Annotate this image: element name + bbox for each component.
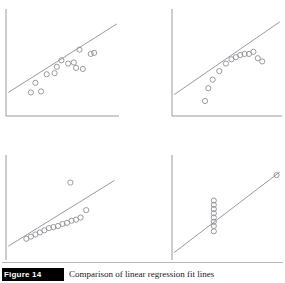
data-point-marker [33, 80, 38, 85]
data-point-marker [71, 60, 76, 65]
data-point-marker [52, 71, 57, 76]
figure-number-tag: Figure 14 [2, 268, 64, 281]
data-point-marker [54, 64, 59, 69]
data-point-marker [251, 49, 256, 54]
data-point-marker [68, 180, 73, 185]
data-point-marker [210, 77, 215, 82]
data-points [202, 49, 264, 103]
data-points [211, 173, 279, 234]
fit-line-group [174, 172, 280, 253]
data-point-marker [73, 65, 78, 70]
data-point-marker [211, 229, 216, 234]
data-points [24, 180, 89, 241]
data-point-marker [274, 173, 279, 178]
data-point-marker [206, 86, 211, 91]
chart-panel-top-left[interactable] [0, 0, 142, 130]
data-point-marker [80, 66, 85, 71]
chart-panel-top-right[interactable] [143, 0, 285, 130]
axes-top-right [172, 9, 282, 116]
data-point-marker [84, 208, 89, 213]
data-point-marker [78, 215, 83, 220]
figure-caption-bar: Figure 14 Comparison of linear regressio… [0, 264, 285, 283]
data-point-marker [66, 61, 71, 66]
data-point-marker [223, 61, 228, 66]
data-point-marker [202, 98, 207, 103]
scatter-plot-top-right[interactable] [143, 0, 285, 130]
figure-caption-text: Comparison of linear regression fit line… [69, 269, 281, 280]
data-point-marker [217, 68, 222, 73]
figure-root: Figure 14 Comparison of linear regressio… [0, 0, 285, 283]
scatter-plot-top-left[interactable] [0, 0, 142, 130]
data-point-marker [44, 72, 49, 77]
scatter-plot-bottom-left[interactable] [0, 130, 142, 260]
panel-grid [0, 0, 285, 262]
chart-panel-bottom-left[interactable] [0, 130, 142, 260]
regression-line [174, 22, 280, 95]
caption-divider-rule [2, 262, 283, 263]
data-point-marker [88, 51, 93, 56]
data-point-marker [28, 90, 33, 95]
fit-line-group [8, 180, 114, 246]
chart-panel-bottom-right[interactable] [143, 130, 285, 260]
fit-line-group [174, 22, 280, 95]
scatter-plot-bottom-right[interactable] [143, 130, 285, 260]
axes-bottom-left [6, 155, 119, 260]
data-point-marker [260, 59, 265, 64]
axes-bottom-right [172, 155, 282, 260]
data-points [28, 47, 96, 95]
regression-line [8, 180, 114, 246]
data-point-marker [92, 50, 97, 55]
data-point-marker [38, 89, 43, 94]
regression-line [174, 172, 280, 253]
